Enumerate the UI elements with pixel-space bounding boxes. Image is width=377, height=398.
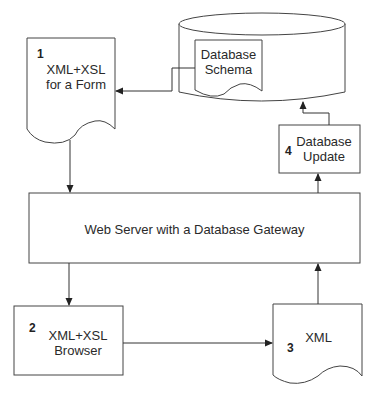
db-update-label-line2: Update [292, 149, 356, 164]
browser-step-number: 2 [29, 321, 36, 335]
xml-step-number: 3 [287, 341, 294, 355]
schema-label-line1: Database [195, 47, 262, 62]
form-step-number: 1 [37, 47, 44, 61]
db-update-label-line1: Database [292, 134, 356, 149]
form-label-line1: XML+XSL [35, 62, 117, 77]
schema-label-line2: Schema [195, 62, 262, 77]
db-update-step-number: 4 [285, 144, 292, 158]
xml-label: XML [296, 330, 341, 345]
web-server-label: Web Server with a Database Gateway [29, 222, 360, 237]
form-label-line2: for a Form [35, 77, 117, 92]
browser-label-line2: Browser [38, 343, 118, 358]
arrow-update-to-database [303, 102, 329, 125]
browser-label-line1: XML+XSL [38, 328, 118, 343]
